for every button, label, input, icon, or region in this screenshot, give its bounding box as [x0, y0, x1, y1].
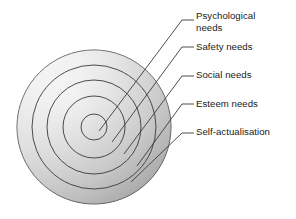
- label-safety-needs: Safety needs: [196, 41, 292, 53]
- label-esteem-needs: Esteem needs: [196, 98, 292, 110]
- label-social-needs: Social needs: [196, 69, 292, 81]
- ring-overlay-shade: [17, 50, 171, 204]
- diagram-page: Psychological needs Safety needs Social …: [0, 0, 296, 219]
- label-self-actualisation: Self-actualisation: [196, 126, 292, 138]
- label-psychological-needs: Psychological needs: [196, 10, 292, 33]
